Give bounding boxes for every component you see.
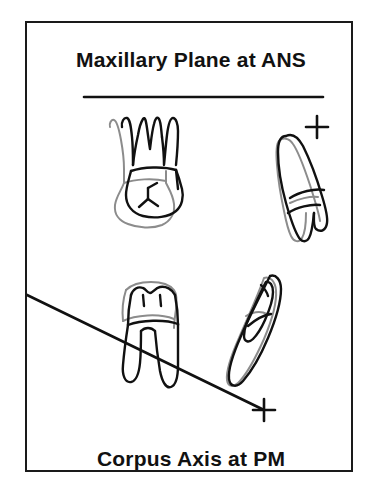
pm-landmark-cross-icon bbox=[253, 399, 275, 421]
upper-molar-outline-secondary bbox=[110, 120, 174, 228]
tooth-upper-molar bbox=[110, 118, 183, 228]
tooth-upper-premolar bbox=[276, 116, 328, 241]
lower-incisor-outline-primary bbox=[229, 276, 281, 386]
cephalometric-tracing-figure: Maxillary Plane at ANS bbox=[0, 0, 376, 496]
tooth-lower-incisor bbox=[227, 276, 281, 386]
tooth-lower-molar bbox=[123, 282, 178, 387]
lower-molar-outline-primary bbox=[123, 287, 178, 387]
corpus-axis-line bbox=[27, 295, 264, 410]
ans-landmark-cross-icon bbox=[306, 116, 328, 138]
tooth-tracing-canvas bbox=[27, 23, 355, 474]
upper-premolar-outline-primary bbox=[278, 135, 327, 241]
figure-title-bottom: Corpus Axis at PM bbox=[27, 447, 355, 471]
figure-border-frame: Maxillary Plane at ANS bbox=[25, 21, 353, 472]
